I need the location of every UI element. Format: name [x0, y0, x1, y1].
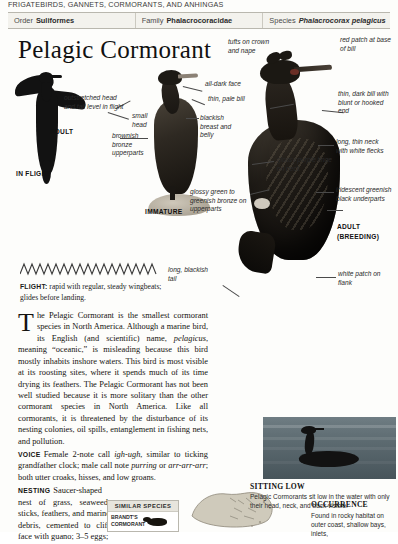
caption-adult: ADULT — [50, 128, 73, 135]
para1-italic: pelagicus — [174, 334, 206, 343]
annotation-all-dark-face: all-dark face — [205, 80, 255, 89]
annotation-long-thin-neck-flecks: long, thin neck with white flecks — [336, 138, 392, 155]
annotation-blackish-breast-belly: blackish breast and belly — [200, 114, 236, 140]
leader-line — [316, 277, 336, 278]
wingbeat-pattern-diagram — [20, 262, 160, 276]
leader-line — [316, 192, 334, 193]
similar-species-item: BRANDT'S CORMORANT — [108, 512, 178, 530]
nesting-text: Saucer-shaped nest of grass, seaweed, st… — [18, 486, 110, 541]
similar-species-name: BRANDT'S CORMORANT — [111, 514, 143, 528]
caption-immature: IMMATURE — [145, 208, 182, 215]
annotation-tufts-crown-nape: tufts on crown and nape — [228, 38, 272, 55]
annotation-glossy-purple-neck: glossy purple tinge on neck — [277, 156, 333, 173]
voice-a: Female 2-note call — [44, 450, 115, 459]
annotation-iridescent-underparts: iridescent greenish black underparts — [336, 186, 392, 203]
annotation-thin-dark-bill: thin, dark bill with blunt or hooked end — [338, 90, 392, 116]
order-value: Suliformes — [36, 16, 74, 25]
para1-b: , meaning “oceanic,” is misleading becau… — [18, 334, 208, 446]
similar-species-name-line2: CORMORANT — [111, 521, 143, 528]
annotation-red-patch-base-bill: red patch at base of bill — [340, 36, 394, 53]
family-label: Family — [142, 16, 164, 25]
family-value: Phalacrocoracidae — [166, 16, 232, 25]
voice-italic-3: arr-arr-arr — [168, 461, 205, 470]
similar-species-header: SIMILAR SPECIES — [108, 501, 178, 512]
annotation-small-head: small head — [132, 112, 162, 129]
order-label: Order — [14, 16, 33, 25]
annotation-outstretched-head: outstretched head and tail level in flig… — [64, 94, 126, 111]
leader-line — [186, 118, 199, 119]
drop-cap: T — [18, 311, 37, 333]
leader-line — [318, 145, 334, 146]
paragraph-voice: VOICEFemale 2-note call igh-ugh, similar… — [18, 449, 208, 483]
annotation-brownish-bronze-upperparts: brownish bronze upperparts — [112, 132, 160, 158]
leader-line — [222, 285, 239, 297]
voice-heading: VOICE — [18, 451, 41, 458]
voice-c: or — [157, 461, 169, 470]
taxonomy-species: Species Phalacrocorax pelagicus — [263, 13, 390, 28]
flight-label: FLIGHT: — [20, 283, 47, 290]
species-label: Species — [269, 16, 295, 25]
annotation-thin-pale-bill: thin, pale bill — [208, 95, 248, 104]
caption-adult-breeding: ADULT — [337, 223, 360, 230]
running-head: FRIGATEBIRDS, GANNETS, CORMORANTS, AND A… — [8, 0, 390, 12]
caption-adult-breeding-qualifier: (BREEDING) — [337, 233, 379, 240]
leader-line — [108, 112, 129, 120]
paragraph-description: The Pelagic Cormorant is the smallest co… — [18, 310, 208, 447]
brandts-cormorant-thumbnail — [143, 514, 171, 528]
voice-italic-1: igh-ugh — [114, 450, 140, 459]
species-value: Phalacrocorax pelagicus — [299, 16, 386, 25]
annotation-glossy-green-upperparts: glossy green to greenish bronze on upper… — [190, 188, 250, 214]
similar-species-box: SIMILAR SPECIES BRANDT'S CORMORANT — [107, 500, 179, 532]
annotation-long-blackish-tail: long, blackish tail — [168, 266, 214, 283]
taxonomy-order: Order Suliformes — [8, 13, 136, 28]
leader-line — [327, 210, 343, 211]
flight-description: FLIGHT: rapid with regular, steady wingb… — [20, 282, 170, 303]
paragraph-nesting: NESTINGSaucer-shaped nest of grass, seaw… — [18, 485, 110, 542]
sitting-low-photograph — [263, 417, 396, 479]
taxonomy-bar: Order Suliformes Family Phalacrocoracida… — [8, 12, 390, 29]
annotation-white-patch-flank: white patch on flank — [338, 270, 388, 287]
taxonomy-family: Family Phalacrocoracidae — [136, 13, 264, 28]
occurrence-heading: OCCURRENCE — [311, 500, 368, 509]
voice-italic-2: purring — [131, 461, 157, 470]
occurrence-text: Found in rocky habitat on outer coast, s… — [311, 511, 397, 539]
caption-in-flight: IN FLIGHT — [16, 170, 51, 177]
nesting-heading: NESTING — [18, 487, 50, 494]
sitting-low-heading: SITTING LOW — [250, 482, 305, 491]
illustration-plate: outstretched head and tail level in flig… — [0, 60, 398, 260]
